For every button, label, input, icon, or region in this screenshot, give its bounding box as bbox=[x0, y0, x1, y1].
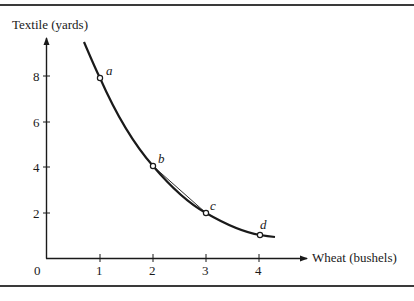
point-label-a: a bbox=[106, 63, 113, 78]
x-tick-label-1: 1 bbox=[96, 263, 103, 278]
y-tick-label-8: 8 bbox=[33, 69, 40, 84]
chord-b-c bbox=[153, 166, 206, 213]
point-label-d: d bbox=[260, 217, 267, 232]
indifference-curve bbox=[84, 42, 275, 237]
point-label-b: b bbox=[158, 151, 165, 166]
y-axis-title: Textile (yards) bbox=[12, 17, 88, 32]
point-a bbox=[97, 75, 102, 80]
origin-label: 0 bbox=[34, 263, 41, 278]
x-tick-label-4: 4 bbox=[255, 263, 262, 278]
point-c bbox=[203, 210, 208, 215]
x-axis-title: Wheat (bushels) bbox=[312, 250, 397, 265]
x-tick-label-2: 2 bbox=[149, 263, 156, 278]
point-b bbox=[150, 163, 155, 168]
y-tick-label-6: 6 bbox=[33, 115, 40, 130]
y-tick-label-2: 2 bbox=[33, 206, 40, 221]
chart: 8 6 4 2 0 1 2 3 4 Textile (yards) Wheat … bbox=[0, 0, 414, 301]
point-d bbox=[257, 232, 262, 237]
point-label-c: c bbox=[210, 198, 216, 213]
y-tick-label-4: 4 bbox=[33, 160, 40, 175]
x-tick-label-3: 3 bbox=[202, 263, 209, 278]
